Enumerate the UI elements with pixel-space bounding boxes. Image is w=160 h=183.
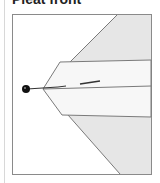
pleat-diagram: [0, 0, 160, 183]
